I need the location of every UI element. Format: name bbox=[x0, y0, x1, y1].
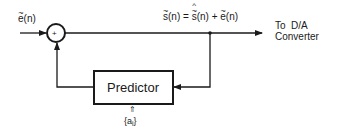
eq-lhs-rest: (n) bbox=[168, 11, 180, 22]
feedback-to-predictor bbox=[174, 33, 210, 87]
coefficients-arrow: ⇑ bbox=[129, 105, 136, 115]
input-base: e bbox=[18, 14, 24, 24]
eq-equals: = bbox=[183, 11, 189, 22]
summing-sign: + bbox=[52, 29, 57, 39]
eq-term2-base: e bbox=[220, 12, 226, 22]
output-equation: s(n) = s(n) + e(n) bbox=[163, 12, 238, 22]
eq-term2-rest: (n) bbox=[226, 11, 238, 22]
coef-close: } bbox=[134, 116, 137, 126]
coefficients-label: {ai} bbox=[124, 116, 137, 129]
output-label-line1: To D/A bbox=[275, 21, 308, 31]
predictor-to-junction bbox=[57, 43, 94, 87]
eq-plus: + bbox=[212, 11, 218, 22]
eq-term1-base: s bbox=[192, 12, 197, 22]
predictor-label: Predictor bbox=[107, 80, 159, 95]
eq-lhs-base: s bbox=[163, 12, 168, 22]
input-label: e(n) bbox=[18, 14, 36, 24]
output-label-line2: Converter bbox=[275, 32, 319, 42]
input-rest: (n) bbox=[24, 13, 36, 24]
eq-term1-rest: (n) bbox=[197, 11, 209, 22]
